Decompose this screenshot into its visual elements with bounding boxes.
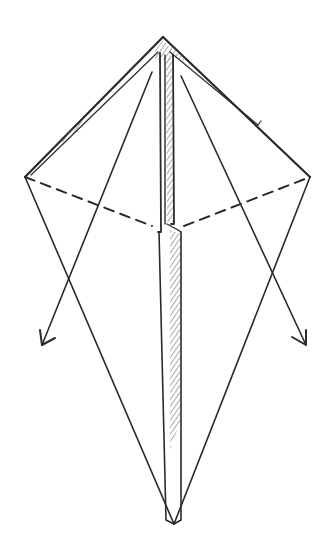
- lower-right-edge: [174, 177, 310, 524]
- center-strip: [158, 53, 181, 524]
- lower-left-edge: [25, 177, 174, 524]
- right-arrow-icon: [181, 76, 306, 345]
- top-left-edge: [25, 37, 163, 177]
- top-right-edge: [163, 37, 310, 177]
- origami-diagram: [0, 0, 328, 549]
- diagram-svg: [0, 0, 328, 549]
- left-arrow-icon: [40, 72, 152, 345]
- dashed-fold-left: [25, 177, 152, 226]
